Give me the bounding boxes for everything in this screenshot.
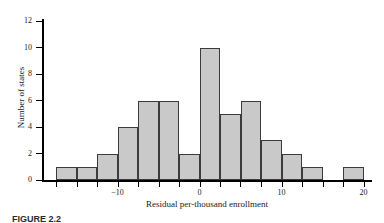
y-axis-tick [36,47,42,48]
y-axis-line [42,19,44,182]
histogram-bar [241,101,262,181]
y-axis-tick [36,127,42,128]
x-axis-tick [282,182,283,187]
histogram-bar [261,140,282,180]
histogram-bar [179,154,200,181]
figure-container: 024681012 −1001020 Residual per-thousand… [0,0,384,223]
histogram-bar [282,154,303,181]
x-axis-tick [77,182,78,187]
x-axis-tick [179,182,180,187]
x-axis-tick [138,182,139,187]
histogram-bar [302,167,323,180]
x-axis-tick [240,182,241,187]
y-axis-tick [36,21,42,22]
x-axis-tick-label: −10 [98,188,138,197]
x-axis-tick [118,182,119,187]
x-axis-tick [220,182,221,187]
figure-caption: FIGURE 2.2 [12,214,61,223]
y-axis-title: Number of states [16,28,27,168]
histogram-bar [159,101,180,181]
histogram-plot: 024681012 −1001020 Residual per-thousand… [0,0,384,223]
x-axis-tick [261,182,262,187]
x-axis-tick [343,182,344,187]
x-axis-title: Residual per-thousand enrollment [42,199,372,210]
histogram-bar [97,154,118,181]
y-axis-tick-label: 12 [0,17,32,25]
x-axis-tick-label: 20 [344,188,384,197]
y-axis-tick [36,153,42,154]
y-axis-tick-label: 0 [0,176,32,184]
x-axis-tick-label: 10 [262,188,302,197]
y-axis-tick [36,100,42,101]
histogram-bar [77,167,98,180]
histogram-bar [343,167,364,180]
x-axis-tick [56,182,57,187]
y-axis-tick [36,74,42,75]
x-axis-tick [159,182,160,187]
x-axis-tick [302,182,303,187]
y-axis-tick [36,180,42,181]
x-axis-tick [364,182,365,187]
histogram-bar [138,101,159,181]
x-axis-tick-label: 0 [180,188,220,197]
x-axis-tick [323,182,324,187]
histogram-bar [56,167,77,180]
histogram-bar [200,48,221,181]
x-axis-tick [97,182,98,187]
histogram-bar [220,114,241,180]
x-axis-tick [200,182,201,187]
histogram-bar [118,127,139,180]
